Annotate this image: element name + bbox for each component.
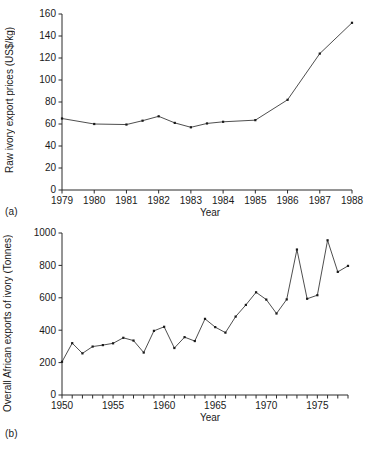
svg-a-y-tick-label: 80 [45,96,57,107]
svg-b-data-point [194,340,196,342]
svg-a-data-point [93,123,95,125]
svg-b-data-point [173,347,175,349]
chart-b-y-axis-label: Overall African exports of ivory (Tonnes… [2,233,30,413]
svg-a-x-tick-label: 1981 [115,195,138,206]
svg-b-x-tick-label: 1950 [51,400,74,411]
svg-b-data-point [265,298,267,300]
svg-b-data-point [286,298,288,300]
svg-a-x-tick-label: 1987 [309,195,332,206]
svg-b-data-point [224,332,226,334]
svg-b-data-point [235,315,237,317]
svg-a-y-tick-label: 40 [45,140,57,151]
svg-a-x-tick-label: 1979 [51,195,74,206]
svg-b-data-point [143,351,145,353]
svg-b-data-point [316,294,318,296]
svg-b-data-point [347,265,349,267]
svg-a-y-tick-label: 140 [39,30,56,41]
panel-label-b: (b) [5,428,18,439]
svg-a-data-point [141,120,143,122]
svg-b-data-point [214,326,216,328]
svg-a-x-tick-label: 1986 [276,195,299,206]
chart-a-y-axis-label: Raw ivory export prices (US$/kg) [4,12,18,187]
svg-b-x-tick-label: 1955 [102,400,125,411]
svg-b-y-tick-label: 0 [50,389,56,400]
svg-a-data-point [351,22,353,24]
chart-b-x-axis-label: Year [60,412,360,423]
svg-b-series-line [62,240,348,361]
svg-b-data-point [153,330,155,332]
svg-b-data-point [122,337,124,339]
svg-a-x-tick-label: 1980 [83,195,106,206]
svg-a-y-tick-label: 0 [50,184,56,195]
svg-b-data-point [306,298,308,300]
chart-a-x-axis-label: Year [60,207,360,218]
svg-b-data-point [102,344,104,346]
svg-a-y-tick-label: 20 [45,162,57,173]
chart-panel-a: Raw ivory export prices (US$/kg) 0204060… [0,0,370,225]
svg-b-x-tick-label: 1975 [306,400,329,411]
panel-label-a: (a) [5,206,18,217]
svg-a-x-tick-label: 1985 [244,195,267,206]
svg-b-data-point [296,248,298,250]
svg-a-y-tick-label: 100 [39,74,56,85]
svg-b-y-tick-label: 800 [39,260,56,271]
svg-a-data-point [254,119,256,121]
svg-b-data-point [183,336,185,338]
svg-a-data-point [174,122,176,124]
svg-b-data-point [245,304,247,306]
svg-a-data-point [286,99,288,101]
svg-a-data-point [125,123,127,125]
svg-b-data-point [255,291,257,293]
svg-a-series-line [62,23,352,128]
svg-a-data-point [61,117,63,119]
svg-a-y-tick-label: 120 [39,52,56,63]
svg-b-data-point [92,345,94,347]
svg-a-data-point [222,121,224,123]
svg-b-y-tick-label: 400 [39,325,56,336]
svg-a-x-tick-label: 1982 [148,195,171,206]
svg-a-x-tick-label: 1984 [212,195,235,206]
svg-a-data-point [206,122,208,124]
svg-b-data-point [326,239,328,241]
svg-b-data-point [61,361,63,363]
svg-b-data-point [204,318,206,320]
svg-a-data-point [158,115,160,117]
svg-a-x-tick-label: 1983 [180,195,203,206]
svg-b-x-tick-label: 1970 [255,400,278,411]
svg-a-y-tick-label: 160 [39,8,56,19]
svg-b-data-point [337,271,339,273]
svg-a-y-tick-label: 60 [45,118,57,129]
svg-b-data-point [163,326,165,328]
svg-b-data-point [112,342,114,344]
svg-b-data-point [275,312,277,314]
svg-b-data-point [81,352,83,354]
svg-b-data-point [132,339,134,341]
svg-b-y-tick-label: 1000 [34,227,57,238]
chart-a-plot: 0204060801001201401601979198019811982198… [0,0,370,225]
svg-b-y-tick-label: 600 [39,292,56,303]
svg-b-x-tick-label: 1960 [153,400,176,411]
svg-b-data-point [71,342,73,344]
svg-a-data-point [190,126,192,128]
svg-b-y-tick-label: 200 [39,357,56,368]
svg-a-data-point [319,53,321,55]
svg-b-x-tick-label: 1965 [204,400,227,411]
svg-a-x-tick-label: 1988 [341,195,364,206]
chart-panel-b: Overall African exports of ivory (Tonnes… [0,225,370,451]
